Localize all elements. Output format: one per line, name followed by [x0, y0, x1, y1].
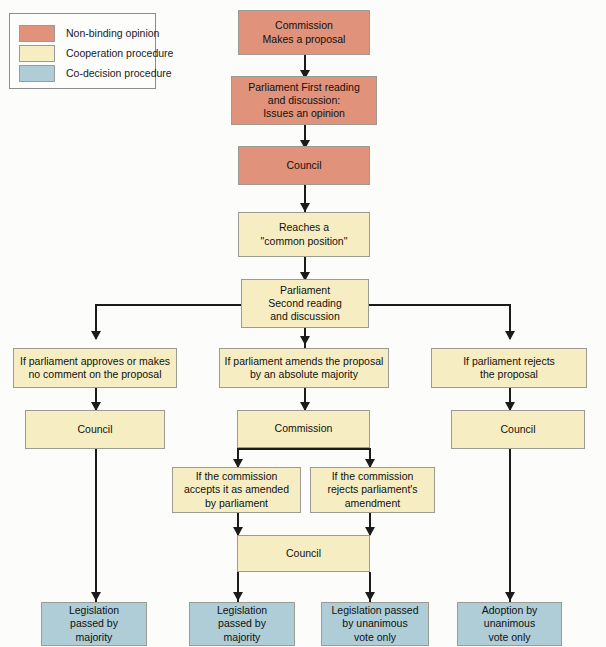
node-outcome-4: Adoption byunanimousvote only — [457, 602, 562, 646]
node-commission-rejects: If the commissionrejects parliament'same… — [310, 467, 435, 513]
legend-swatch-co-decision — [19, 65, 55, 82]
arrowhead-outcome1 — [91, 592, 101, 601]
node-parliament-second-reading: ParliamentSecond readingand discussion — [241, 279, 369, 328]
legend-item-co-decision-procedure: Co-decision procedure — [19, 64, 172, 82]
node-branch-right: If parliament rejectsthe proposal — [431, 348, 587, 388]
legend-label-cooperation: Cooperation procedure — [66, 47, 173, 59]
node-commission-proposal: CommissionMakes a proposal — [238, 10, 370, 55]
node-parliament-first-reading: Parliament First readingand discussion:I… — [231, 76, 377, 125]
node-branch-middle: If parliament amends the proposalby an a… — [219, 348, 389, 388]
arrowhead-common-position — [300, 203, 310, 212]
node-commission-accepts: If the commissionaccepts it as amendedby… — [172, 467, 301, 513]
node-branch-left: If parliament approves or makesno commen… — [13, 348, 177, 388]
arrowhead-branch-middle — [300, 336, 310, 345]
node-outcome-2: Legislationpassed bymajority — [189, 602, 295, 646]
legend-label-non-binding: Non-binding opinion — [66, 27, 159, 39]
arrowhead-branch-right — [505, 331, 515, 340]
node-council-centre: Council — [237, 535, 370, 572]
arrowhead-outcome4 — [505, 592, 515, 601]
connector-councilleft-to-outcome1 — [95, 449, 97, 602]
node-council-right: Council — [451, 410, 585, 449]
node-council-left: Council — [25, 410, 165, 449]
legend-label-co-decision: Co-decision procedure — [66, 67, 172, 79]
legend: Non-binding opinion Cooperation procedur… — [9, 13, 156, 89]
node-commission-middle: Commission — [237, 410, 370, 448]
node-council-1: Council — [238, 146, 370, 185]
connector-councilright-to-outcome4 — [509, 449, 511, 602]
connector-bus-left — [95, 304, 241, 306]
legend-item-cooperation-procedure: Cooperation procedure — [19, 44, 173, 62]
connector-bus-right — [369, 304, 511, 306]
node-outcome-3: Legislation passedby unanimousvote only — [321, 602, 429, 646]
legend-item-non-binding-opinion: Non-binding opinion — [19, 24, 159, 42]
node-outcome-1: Legislationpassed bymajority — [41, 602, 147, 646]
arrowhead-branch-left — [91, 331, 101, 340]
flowchart-canvas: Non-binding opinion Cooperation procedur… — [0, 0, 606, 647]
node-common-position: Reaches a"common position" — [238, 212, 370, 257]
legend-swatch-cooperation — [19, 45, 55, 62]
arrowhead-outcome3 — [365, 592, 375, 601]
connector-commission-split-bus — [237, 448, 371, 450]
arrowhead-outcome2 — [233, 592, 243, 601]
legend-swatch-non-binding — [19, 25, 55, 42]
